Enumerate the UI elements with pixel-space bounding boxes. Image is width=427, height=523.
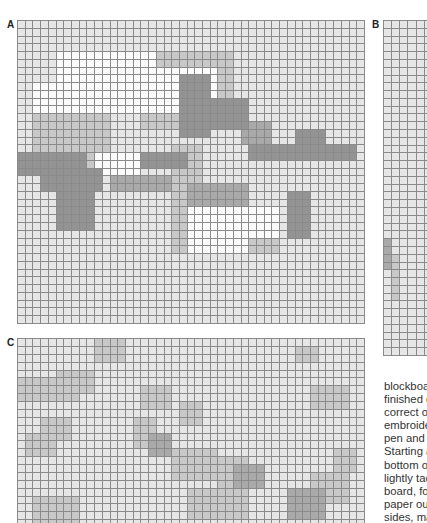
grid-cell [195,184,202,191]
grid-cell [103,473,110,480]
grid-cell [49,83,56,90]
grid-cell [350,355,357,362]
grid-cell [57,481,64,488]
grid-cell [319,481,326,488]
grid-cell [257,145,264,152]
grid-cell [303,246,310,253]
grid-cell [165,465,172,472]
grid-cell [272,91,279,98]
grid-cell [265,60,272,67]
grid-cell [296,130,303,137]
grid-cell [296,68,303,75]
grid-cell [203,44,210,51]
grid-cell [180,153,187,160]
grid-cell [188,130,195,137]
grid-cell [180,246,187,253]
grid-cell [111,37,118,44]
grid-cell [226,465,233,472]
grid-cell [249,497,256,504]
grid-cell [211,192,218,199]
grid-cell [218,301,225,308]
grid-cell [280,176,287,183]
grid-cell [272,512,279,519]
grid-cell [180,441,187,448]
grid-cell [87,481,94,488]
grid-cell [218,441,225,448]
grid-cell [72,215,79,222]
grid-cell [157,145,164,152]
grid-cell [18,262,25,269]
grid-cell [400,99,407,106]
grid-cell [257,223,264,230]
grid-cell [157,231,164,238]
grid-cell [417,161,424,168]
grid-cell [296,145,303,152]
grid-cell [18,394,25,401]
grid-cell [134,449,141,456]
grid-cell [334,75,341,82]
grid-cell [257,410,264,417]
grid-cell [141,285,148,292]
grid-cell [149,207,156,214]
grid-cell [41,52,48,59]
grid-cell [392,122,399,129]
grid-cell [95,246,102,253]
grid-cell [326,21,333,28]
grid-cell [257,457,264,464]
grid-cell [126,316,133,323]
grid-cell [180,301,187,308]
grid-cell [280,497,287,504]
grid-cell [211,29,218,36]
grid-cell [342,481,349,488]
grid-cell [288,184,295,191]
grid-cell [126,434,133,441]
grid-cell [195,293,202,300]
grid-cell [118,246,125,253]
grid-cell [195,270,202,277]
grid-cell [95,277,102,284]
grid-cell [334,497,341,504]
grid-cell [26,449,33,456]
grid-cell [134,153,141,160]
grid-cell [226,497,233,504]
grid-cell [188,215,195,222]
grid-cell [41,130,48,137]
grid-cell [157,122,164,129]
panel-label-c: C [7,337,14,348]
grid-cell [326,169,333,176]
grid-cell [41,410,48,417]
grid-cell [157,60,164,67]
grid-cell [272,277,279,284]
grid-cell [303,215,310,222]
grid-cell [111,270,118,277]
grid-cell [265,394,272,401]
grid-cell [18,37,25,44]
grid-cell [64,497,71,504]
grid-cell [288,138,295,145]
grid-cell [111,138,118,145]
grid-cell [280,371,287,378]
grid-cell [57,262,64,269]
grid-cell [334,410,341,417]
grid-cell [265,153,272,160]
grid-cell [118,512,125,519]
grid-cell [165,418,172,425]
grid-cell [141,481,148,488]
grid-cell [280,169,287,176]
grid-cell [141,293,148,300]
grid-cell [203,339,210,346]
grid-cell [49,37,56,44]
grid-cell [303,512,310,519]
grid-cell [87,52,94,59]
grid-cell [141,308,148,315]
grid-cell [350,231,357,238]
grid-cell [288,339,295,346]
grid-cell [342,363,349,370]
grid-cell [234,285,241,292]
grid-cell [180,449,187,456]
grid-cell [234,489,241,496]
grid-cell [33,176,40,183]
grid-cell [342,277,349,284]
grid-cell [303,169,310,176]
grid-cell [103,44,110,51]
